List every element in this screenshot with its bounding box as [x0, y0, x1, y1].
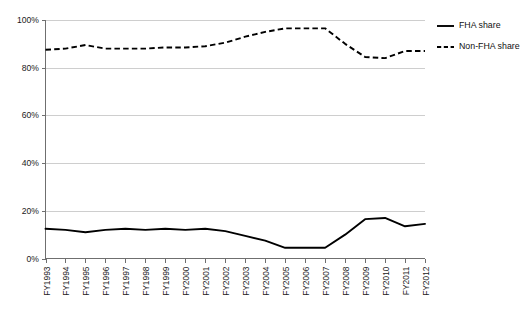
x-tick-label: FY1999 — [161, 266, 171, 296]
x-tick-label: FY2005 — [281, 266, 291, 296]
x-tick-label: FY1998 — [141, 266, 151, 296]
x-tick-label: FY2002 — [221, 266, 231, 296]
x-tick-label: FY2001 — [201, 266, 211, 296]
chart-container: 0%20%40%60%80%100% FY1993FY1994FY1995FY1… — [0, 0, 524, 324]
x-tick-label: FY2011 — [401, 266, 411, 295]
y-tick-label: 20% — [22, 206, 40, 216]
x-tick-label: FY2006 — [301, 266, 311, 296]
x-tick-label: FY1993 — [42, 266, 52, 296]
legend-label: Non-FHA share — [459, 41, 520, 51]
x-tick-label: FY1996 — [101, 266, 111, 296]
x-tick-label: FY2010 — [381, 266, 391, 296]
y-tick-label: 0% — [27, 254, 40, 264]
x-tick-label: FY1997 — [121, 266, 131, 296]
y-tick-label: 80% — [22, 63, 40, 73]
legend-label: FHA share — [459, 20, 501, 30]
line-chart: 0%20%40%60%80%100% FY1993FY1994FY1995FY1… — [0, 0, 524, 324]
x-tick-label: FY1994 — [61, 266, 71, 296]
x-tick-label: FY2000 — [181, 266, 191, 296]
x-tick-label: FY2008 — [341, 266, 351, 296]
y-tick-label: 40% — [22, 158, 40, 168]
x-tick-label: FY2003 — [241, 266, 251, 296]
x-tick-label: FY2012 — [421, 266, 431, 296]
x-tick-label: FY2004 — [261, 266, 271, 296]
y-tick-label: 100% — [17, 15, 39, 25]
x-tick-label: FY2007 — [321, 266, 331, 296]
x-tick-label: FY1995 — [81, 266, 91, 296]
x-tick-label: FY2009 — [361, 266, 371, 296]
y-tick-label: 60% — [22, 110, 40, 120]
